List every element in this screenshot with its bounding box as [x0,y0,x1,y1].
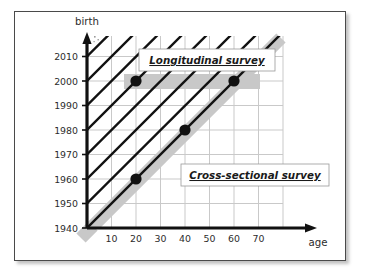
data-point [130,173,141,184]
x-tick-label: 70 [253,233,265,244]
y-tick-label: 2010 [54,51,78,62]
y-tick-label: 1950 [54,198,78,209]
x-tick-label: 20 [130,233,142,244]
arrow-specks [94,36,99,42]
y-tick-label: 2000 [54,76,78,87]
data-point [179,124,190,135]
figure-panel: 1940 1950 1960 1970 1980 1990 2000 2010 … [14,11,346,261]
lexis-diagram-chart: 1940 1950 1960 1970 1980 1990 2000 2010 … [15,12,345,260]
x-axis-title: age [309,237,328,248]
x-tick-label: 30 [155,233,167,244]
x-axis-ticks: 10 20 30 40 50 60 70 [106,233,265,244]
x-tick-label: 40 [179,233,191,244]
cross-sectional-survey-label: Cross-sectional survey [189,169,322,181]
cross-sectional-survey-callout: Cross-sectional survey [181,164,329,186]
y-tick-label: 1990 [54,100,78,111]
x-tick-label: 60 [228,233,240,244]
y-tick-label: 1940 [54,223,78,234]
y-tick-label: 1970 [54,149,78,160]
data-point [130,75,141,86]
y-axis-ticks: 1940 1950 1960 1970 1980 1990 2000 2010 [54,51,87,234]
x-tick-label: 10 [106,233,118,244]
longitudinal-survey-label: Longitudinal survey [149,54,266,66]
y-tick-label: 1960 [54,174,78,185]
x-tick-label: 50 [204,233,216,244]
y-axis-title: birth [75,16,99,27]
data-point [228,75,239,86]
longitudinal-survey-callout: Longitudinal survey [139,49,275,71]
y-tick-label: 1980 [54,125,78,136]
